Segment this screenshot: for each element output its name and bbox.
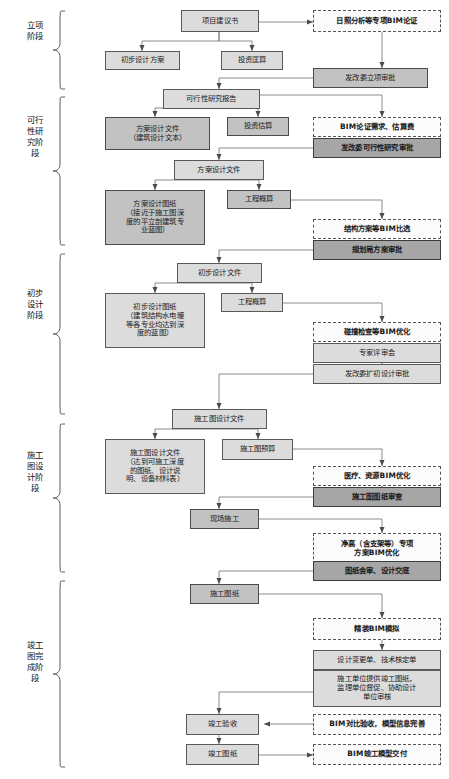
node-sheji-biangengdan[interactable]: 设计变更单、技术核定单 [313, 650, 441, 670]
node-xianchang-shigong[interactable]: 现场施工 [190, 509, 259, 529]
node-shigong-danwei-tigong[interactable]: 施工单位提供竣工图纸， 监理单位督促、协助设计 单位审核 [313, 670, 441, 707]
node-kexingxing-yanjiu-baogao[interactable]: 可行性研究报告 [163, 89, 260, 109]
node-jiegou-fangan-bim-bixuan[interactable]: 结构方案等BIM比选 [313, 219, 441, 239]
node-touzi-guangsuan[interactable]: 投资匡算 [221, 51, 283, 70]
node-xiangmu-jianyishu[interactable]: 项目建议书 [181, 10, 259, 32]
node-jinggao-zhuanxiang-bim[interactable]: 净高（含支架等）专项 方案BIM优化 [313, 533, 441, 564]
node-chubu-sheji-wenjian[interactable]: 初步设计文件 [177, 263, 262, 283]
stage-shigongtu-label: 施工图设计阶段 [26, 450, 44, 494]
node-yiliao-ziyuan-bim[interactable]: 医疗、资源BIM优化 [313, 466, 441, 486]
node-shigongtu-sheji-wenjian-2[interactable]: 施工图设计文件 （达到可施工深度 的图纸、设计说 明、设备材料表） [105, 439, 205, 494]
node-jungong-yanshou[interactable]: 竣工验收 [186, 714, 259, 735]
node-guihuaju-fangan-shenpi[interactable]: 规划局方案审批 [313, 240, 441, 260]
node-jungong-tuzhi[interactable]: 竣工图纸 [186, 744, 259, 765]
brace-stage-jungong [52, 580, 66, 768]
node-fangan-sheji-wenjian-2[interactable]: 方案设计文件 [174, 160, 264, 180]
stage-kexingxing-label: 可行性研究阶段 [26, 115, 44, 159]
stage-jungong-label: 竣工图完成阶段 [26, 640, 44, 684]
node-pengzhuang-jiancha-bim[interactable]: 碰撞检查等BIM优化 [313, 322, 441, 342]
node-zhuanjia-pingshenhui[interactable]: 专家评审会 [313, 343, 441, 363]
node-fangan-sheji-wenjian-1[interactable]: 方案设计文件 （建筑设计文本） [105, 117, 210, 150]
flowchart-canvas: 立项阶段 可行性研究阶段 初步设计阶段 施工图设计阶段 竣工图完成阶段 项目建议… [0, 0, 449, 779]
node-richao-bim-lunzheng[interactable]: 日照分析等专项BIM论证 [313, 10, 441, 32]
node-fangan-sheji-tuzhi[interactable]: 方案设计图纸 （接近于施工图深 度的平立剖建筑专 业蓝图） [105, 190, 205, 245]
node-fagaiwei-kuochu-shenpi[interactable]: 发改委扩初设计审批 [313, 364, 441, 384]
node-chubu-sheji-fangan[interactable]: 初步设计方案 [105, 51, 180, 70]
node-fagaiwei-kexingxing-shenpi[interactable]: 发改委可行性研究审批 [313, 138, 441, 158]
brace-stage-lixiang [52, 10, 66, 90]
node-gongcheng-gaisuan-2[interactable]: 工程概算 [221, 293, 283, 312]
node-shigong-tuzhi[interactable]: 施工图纸 [190, 584, 259, 604]
node-shigongtu-sheji-wenjian-1[interactable]: 施工图设计文件 [172, 409, 267, 429]
brace-stage-kexingxing [52, 96, 66, 246]
node-jingzhuang-bim-moni[interactable]: 精装BIM模拟 [313, 618, 441, 640]
brace-stage-shigongtu [52, 423, 66, 573]
node-shigongtu-yusuan[interactable]: 施工图预算 [222, 439, 293, 460]
stage-lixiang-label: 立项阶段 [26, 20, 44, 42]
brace-stage-chubu [52, 253, 66, 415]
node-fagaiwei-lixiang-shenpi[interactable]: 发改委立项审批 [313, 68, 428, 88]
stage-chubu-label: 初步设计阶段 [26, 288, 44, 321]
node-touzi-gusuan[interactable]: 投资估算 [227, 117, 289, 136]
node-gongcheng-gaisuan-1[interactable]: 工程概算 [227, 190, 291, 209]
node-chubu-sheji-tuzhi[interactable]: 初步设计图纸 （建筑结构水电暖 等各专业均达到深 度的蓝图） [105, 293, 205, 348]
node-shigongtu-tuzhi-shencha[interactable]: 施工图图纸审查 [313, 487, 441, 507]
node-bim-duibi-yanshou[interactable]: BIM对比验收，模型信息完善 [313, 714, 441, 735]
node-bim-jungong-moxing[interactable]: BIM竣工模型交付 [313, 744, 441, 765]
node-tuzhi-huishen-jiaodi[interactable]: 图纸会审、设计交底 [313, 561, 441, 581]
node-bim-lunzheng-xuqiu[interactable]: BIM论证需求、估算费 [313, 117, 441, 137]
